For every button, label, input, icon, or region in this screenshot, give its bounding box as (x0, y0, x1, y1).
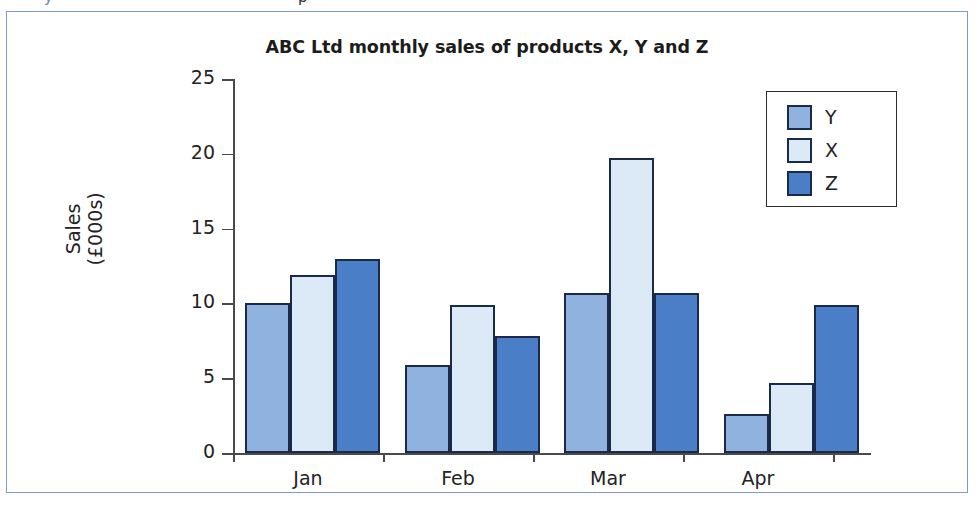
legend-item-Y: Y (787, 101, 896, 133)
chart-title: ABC Ltd monthly sales of products X, Y a… (7, 37, 967, 57)
legend-swatch-X (787, 138, 812, 163)
legend-label-Z: Z (825, 174, 838, 193)
y-tick-15 (222, 229, 233, 231)
bar-mar-Z (654, 293, 699, 453)
remnant-glyph-left: y (44, 0, 53, 6)
bar-apr-Y (724, 414, 769, 453)
cutoff-text-remnant: y p (0, 0, 980, 10)
y-tick-label-5: 5 (155, 365, 215, 387)
bar-mar-X (609, 158, 654, 453)
bar-feb-Z (495, 336, 540, 453)
y-tick-label-25: 25 (155, 66, 215, 88)
bar-jan-X (290, 275, 335, 453)
bar-feb-X (450, 305, 495, 453)
y-tick-5 (222, 378, 233, 380)
legend-swatch-Y (787, 105, 812, 130)
bar-apr-X (769, 383, 814, 453)
y-tick-label-20: 20 (155, 141, 215, 163)
y-tick-10 (222, 303, 233, 305)
x-cat-label-jan: Jan (248, 467, 368, 489)
y-tick-0 (222, 453, 233, 455)
x-cat-label-apr: Apr (698, 467, 818, 489)
x-axis-line (233, 453, 871, 455)
bar-jan-Z (335, 259, 380, 453)
y-tick-label-0: 0 (155, 440, 215, 462)
y-tick-label-10: 10 (155, 290, 215, 312)
x-tick-2 (533, 453, 535, 462)
x-tick-0 (233, 453, 235, 462)
legend-swatch-Z (787, 171, 812, 196)
legend-item-X: X (787, 134, 896, 166)
remnant-glyph-mid: p (298, 0, 308, 6)
x-cat-label-feb: Feb (398, 467, 518, 489)
y-tick-label-15: 15 (155, 216, 215, 238)
x-tick-4 (833, 453, 835, 462)
chart-legend: Y X Z (766, 91, 897, 207)
chart-figure-frame: ABC Ltd monthly sales of products X, Y a… (6, 11, 968, 493)
bar-mar-Y (564, 293, 609, 453)
legend-label-X: X (825, 141, 838, 160)
y-axis-title-line1: Sales (63, 129, 85, 329)
y-axis-title-line2: (£000s) (85, 129, 107, 329)
y-tick-25 (222, 79, 233, 81)
x-tick-3 (683, 453, 685, 462)
bar-feb-Y (405, 365, 450, 453)
x-tick-1 (383, 453, 385, 462)
bar-apr-Z (814, 305, 859, 453)
y-tick-20 (222, 154, 233, 156)
legend-item-Z: Z (787, 167, 896, 199)
legend-label-Y: Y (825, 108, 837, 127)
bar-jan-Y (245, 303, 290, 453)
y-axis-title: Sales (£000s) (63, 129, 107, 329)
x-cat-label-mar: Mar (548, 467, 668, 489)
